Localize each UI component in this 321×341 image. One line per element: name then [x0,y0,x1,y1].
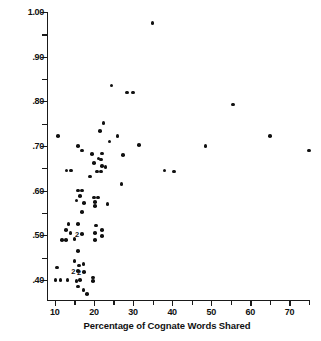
data-point [92,161,96,165]
data-point [99,158,103,162]
y-axis-title: Phi Values for Culture Traits Shared [0,0,22,341]
data-point [82,288,86,292]
x-tick-mark [74,300,75,305]
data-point [56,134,60,138]
data-point [67,222,71,226]
y-tick-label: .60 [32,186,44,196]
data-point [85,292,89,296]
x-tick-label: 30 [128,307,137,317]
x-tick-mark [133,300,134,306]
data-point [96,196,100,200]
data-point [88,175,92,179]
data-point [116,134,120,138]
data-point [78,194,82,198]
data-point [82,201,86,205]
data-point [108,140,112,144]
data-point [99,170,103,174]
y-tick-label: .50 [32,230,44,240]
data-point [80,232,84,236]
data-point [76,249,80,253]
y-tick-label: .90 [32,52,44,62]
data-point [100,164,104,168]
data-point [54,278,58,282]
y-tick-mark [42,34,47,35]
data-point [204,144,208,148]
y-tick-label: .80 [32,96,44,106]
y-tick-mark [42,124,47,125]
data-point [231,103,235,107]
x-tick-label: 70 [285,307,294,317]
data-point [125,91,129,95]
data-point [106,202,110,206]
x-axis-title: Percentage of Cognate Words Shared [47,320,287,331]
data-point [76,285,80,289]
x-tick-mark [309,300,310,305]
y-tick-mark [42,79,47,80]
data-point [104,165,108,169]
data-point [121,153,125,157]
data-point-count-label: 2 [77,267,81,276]
data-point [93,200,97,204]
y-tick-label: .70 [32,141,44,151]
data-point [268,134,272,138]
x-tick-mark [231,300,232,305]
data-point [93,231,97,235]
data-point [100,152,104,156]
x-tick-mark [94,300,95,306]
x-tick-mark [192,300,193,305]
data-point [172,170,176,174]
x-tick-label: 60 [246,307,255,317]
data-point [75,199,79,203]
x-tick-label: 50 [207,307,216,317]
plot-area: .40.50.60.70.80.901.00 10203040506070 22… [47,12,309,300]
data-point [91,279,95,283]
x-tick-mark [289,300,290,306]
y-tick-mark [42,213,47,214]
data-point [120,182,124,186]
data-point [80,210,84,214]
data-point-count-label: 2 [71,266,75,275]
data-point [80,189,84,193]
data-point [64,228,68,232]
x-tick-mark [153,300,154,305]
data-point [76,144,80,148]
x-tick-mark [113,300,114,305]
y-tick-label: 1.00 [28,7,44,17]
data-point [69,231,73,235]
y-tick-label: .40 [32,275,44,285]
scatter-plot-figure: Phi Values for Culture Traits Shared .40… [0,0,321,341]
data-point [307,149,311,153]
x-tick-mark [270,300,271,305]
x-tick-label: 10 [50,307,59,317]
data-point [131,91,135,95]
data-point [64,238,68,242]
data-point [65,169,69,173]
x-tick-mark [250,300,251,306]
data-point [66,278,70,282]
data-point [98,129,102,133]
data-point [78,278,82,282]
y-tick-mark [42,258,47,259]
y-tick-mark [42,168,47,169]
x-axis-title-text: Percentage of Cognate Words Shared [84,320,251,331]
x-tick-mark [211,300,212,306]
data-point [69,169,73,173]
data-point [76,222,80,226]
x-tick-mark [172,300,173,306]
data-point [82,262,86,266]
data-point [94,224,98,228]
data-point [100,234,104,238]
data-point [137,143,141,147]
data-point [93,204,97,208]
x-tick-label: 40 [167,307,176,317]
data-point [163,169,167,173]
data-point [93,238,97,242]
data-point [100,228,104,232]
data-point [73,237,77,241]
data-point [151,21,155,25]
data-point [73,259,77,263]
data-point [90,152,94,156]
data-point [82,270,86,274]
x-tick-mark [55,300,56,306]
data-point [102,121,106,125]
